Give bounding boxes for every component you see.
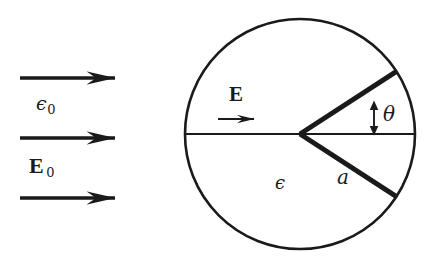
physics-diagram-figure: ϵ0 E0 E ϵ a θ — [0, 0, 435, 262]
external-permittivity-label: ϵ0 — [36, 94, 55, 116]
external-permittivity-subscript: 0 — [47, 102, 55, 117]
sphere-permittivity-label: ϵ — [275, 174, 285, 192]
external-field-subscript: 0 — [46, 165, 54, 180]
inner-field-label: E — [229, 84, 243, 105]
external-field-arrow-group — [20, 78, 115, 198]
sphere-radius-label: a — [337, 167, 349, 187]
external-permittivity-symbol: ϵ — [36, 92, 47, 114]
external-field-label: E0 — [29, 155, 54, 179]
polar-angle-label: θ — [383, 104, 395, 124]
diagram-canvas — [0, 0, 435, 262]
external-field-symbol: E — [29, 153, 44, 178]
theta-angle-marker — [370, 101, 379, 136]
